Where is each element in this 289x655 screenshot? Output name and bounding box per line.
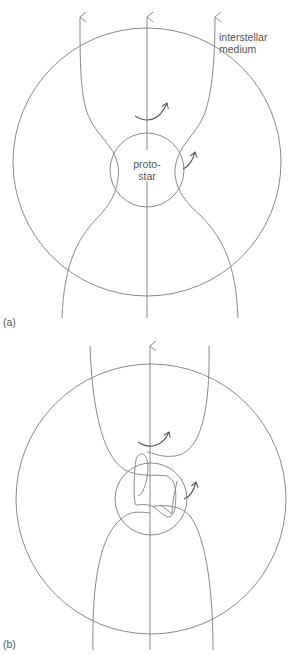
diagram-canvas [0,0,289,655]
panel-a-label: (a) [3,316,16,328]
interstellar-medium-circle-b [16,364,286,634]
panel-b-label: (b) [3,638,16,650]
field-line-right-b-lower [154,506,213,650]
interstellar-medium-line1: interstellar [219,31,267,43]
panel-b [16,346,286,650]
field-line-left-b-lower [93,512,150,650]
protostar-line1: proto- [130,158,164,170]
field-line-right-b-upper [147,346,209,456]
protostar-label: proto- star [130,158,164,182]
protostar-line2: star [130,170,164,182]
field-line-left-b-upper [90,346,176,514]
rotation-arrow-side [183,152,195,169]
interstellar-medium-line2: medium [219,43,267,55]
rotation-arrow-top [135,103,167,120]
interstellar-medium-label: interstellar medium [219,31,267,55]
rotation-arrow-top-b [138,432,169,446]
